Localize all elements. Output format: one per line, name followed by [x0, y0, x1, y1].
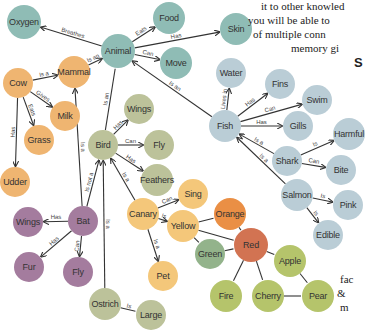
edge-orange-red [239, 227, 241, 230]
node-fish: Fish [209, 110, 241, 142]
node-apple: Apple [274, 245, 306, 277]
edge-yellow-orange [199, 218, 214, 222]
node-move: Move [160, 47, 192, 79]
node-label: Mammal [57, 67, 90, 77]
node-label: Skin [228, 24, 245, 34]
node-udder: Udder [0, 167, 30, 197]
node-oxygen: Oxygen [7, 5, 41, 39]
node-label: Pear [309, 291, 327, 301]
node-label: Salmon [282, 190, 311, 200]
node-milk: Milk [50, 101, 80, 131]
node-bird: Bird [88, 130, 118, 160]
body-text-line: memory gi [291, 42, 339, 54]
node-label: Sing [184, 189, 201, 199]
node-fly_bird: Fly [144, 130, 174, 160]
node-label: Wings [16, 217, 40, 227]
node-label: Grass [27, 135, 50, 145]
edge-label: Is a [105, 220, 111, 230]
node-label: Edible [316, 230, 340, 240]
edge-red-apple [267, 251, 275, 254]
node-pear: Pear [302, 280, 334, 312]
body-text-line: of multiple conn [253, 28, 326, 40]
node-grass: Grass [24, 125, 54, 155]
node-red: Red [234, 228, 268, 262]
body-text-line: & [337, 287, 346, 299]
node-bite: Bite [326, 155, 356, 185]
node-canary: Canary [127, 198, 159, 230]
node-pet: Pet [148, 261, 178, 291]
node-label: Shark [276, 156, 299, 166]
node-label: Bird [95, 140, 110, 150]
node-cherry: Cherry [252, 280, 284, 312]
edge-label: Can [73, 240, 80, 252]
node-fly_bat: Fly [63, 257, 93, 287]
node-cow: Cow [3, 68, 33, 98]
node-label: Canary [129, 209, 157, 219]
node-label: Oxygen [9, 17, 39, 27]
body-text-line: it to other knowled [261, 0, 344, 12]
node-label: Large [140, 310, 162, 320]
node-label: Pink [340, 200, 357, 210]
node-label: Fly [72, 267, 83, 277]
node-label: Fins [272, 79, 288, 89]
body-text-line: m [340, 301, 349, 313]
node-label: Green [198, 249, 222, 259]
node-label: Udder [3, 177, 27, 187]
node-bat: Bat [68, 206, 98, 236]
node-label: Fur [23, 262, 36, 272]
node-label: Milk [57, 111, 72, 121]
node-sing: Sing [178, 179, 208, 209]
node-swim: Swim [302, 85, 332, 115]
node-fire: Fire [210, 280, 242, 312]
node-label: Water [220, 68, 243, 78]
node-label: Animal [105, 46, 131, 56]
edge-label: Is a [79, 142, 86, 152]
node-shark: Shark [272, 146, 302, 176]
node-label: Fish [217, 121, 233, 131]
node-food: Food [153, 2, 185, 34]
body-text-line: fac [340, 273, 353, 285]
node-label: Fly [153, 140, 164, 150]
node-label: Cow [9, 78, 26, 88]
edge-label: Has [256, 119, 267, 125]
node-animal: Animal [101, 34, 135, 68]
node-label: Move [165, 58, 186, 68]
node-salmon: Salmon [281, 179, 313, 211]
edge-yellow-green [194, 238, 199, 243]
body-text-line: you will be able to [248, 14, 330, 26]
edge-green-red [225, 249, 234, 251]
node-fins: Fins [265, 69, 295, 99]
node-label: Cherry [255, 291, 281, 301]
node-label: Orange [216, 209, 245, 219]
node-feathers: Feathers [141, 164, 173, 196]
node-green: Green [195, 239, 225, 269]
edge-yellow-red [198, 230, 233, 240]
node-label: Wings [127, 104, 151, 114]
node-orange: Orange [214, 198, 246, 230]
node-label: Bat [77, 216, 90, 226]
node-label: Food [159, 13, 179, 23]
node-label: Gills [290, 121, 307, 131]
section-heading: S [354, 55, 363, 70]
node-label: Yellow [171, 221, 196, 231]
node-mammal: Mammal [58, 56, 90, 88]
edge-apple-pear [300, 273, 307, 282]
node-label: Ostrich [91, 299, 118, 309]
node-fur: Fur [14, 252, 44, 282]
node-label: Swim [306, 95, 327, 105]
node-label: Feathers [140, 175, 174, 185]
node-harmful: Harmful [333, 118, 365, 150]
node-label: Bite [334, 165, 349, 175]
node-wings_bat: Wings [13, 207, 43, 237]
edge-red-fire [233, 260, 243, 280]
node-label: Harmful [334, 129, 364, 139]
edge-label: Has [9, 126, 15, 137]
edge-red-cherry [256, 261, 262, 280]
node-pink: Pink [333, 190, 363, 220]
node-large: Large [136, 300, 166, 330]
node-label: Fire [219, 291, 234, 301]
node-label: Red [243, 240, 259, 250]
edge-label: Has [51, 214, 62, 220]
node-label: Pet [157, 271, 170, 281]
